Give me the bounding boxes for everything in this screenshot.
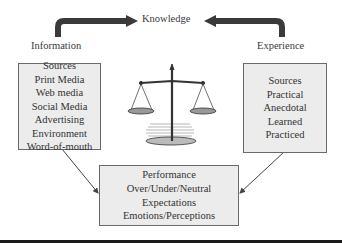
information-to-knowledge-arrow — [58, 15, 138, 37]
experience-line: Practiced — [265, 128, 304, 142]
experience-to-knowledge-arrow — [204, 15, 282, 37]
information-line: Sources — [43, 59, 76, 73]
experience-line: Learned — [268, 115, 302, 129]
outcome-line: Performance — [142, 168, 196, 182]
experience-line: Practical — [267, 88, 304, 102]
experience-sources-box: Sources Practical Anecdotal Learned Prac… — [243, 63, 327, 153]
experience-to-outcome-connector — [240, 152, 284, 193]
outcome-box: Performance Over/Under/Neutral Expectati… — [99, 165, 239, 226]
experience-label: Experience — [257, 40, 304, 51]
information-sources-box: Sources Print Media Web media Social Med… — [18, 63, 101, 150]
outcome-line: Expectations — [142, 196, 196, 210]
knowledge-label: Knowledge — [142, 13, 190, 24]
information-to-outcome-connector — [62, 149, 98, 193]
information-line: Web media — [36, 86, 83, 100]
information-line: Word-of-mouth — [27, 140, 93, 154]
information-line: Environment — [32, 127, 87, 141]
outcome-line: Emotions/Perceptions — [123, 209, 215, 223]
balance-scale-icon — [128, 64, 216, 145]
information-line: Print Media — [35, 73, 85, 87]
experience-line: Sources — [268, 74, 301, 88]
information-line: Social Media — [32, 100, 88, 114]
information-line: Advertising — [35, 113, 85, 127]
information-label: Information — [31, 40, 81, 51]
outcome-line: Over/Under/Neutral — [127, 182, 212, 196]
experience-line: Anecdotal — [263, 101, 306, 115]
